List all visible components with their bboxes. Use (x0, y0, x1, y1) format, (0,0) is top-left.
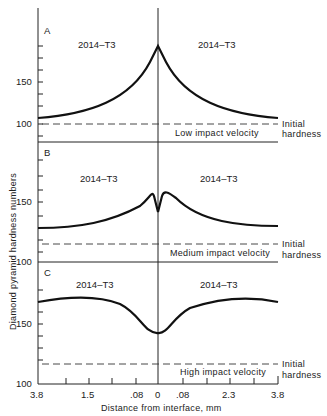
panel-c-hardness-label: hardness (282, 370, 322, 380)
panel-c-condition: High impact velocity (180, 367, 266, 377)
panel-a-label: A (44, 25, 51, 36)
panel-b-initial-label: Initial (282, 239, 305, 249)
hardness-chart: A B C 2014–T3 2014–T3 2014–T3 2014–T3 20… (0, 0, 327, 416)
panel-c-initial-label: Initial (282, 359, 305, 369)
x-axis-title: Distance from interface, mm (101, 403, 222, 413)
panel-b-y150: 150 (16, 196, 32, 207)
panel-b-hardness-label: hardness (282, 250, 322, 260)
x-tick-0: 3.8 (30, 389, 43, 400)
panel-a-hardness-label: hardness (282, 129, 322, 139)
panel-c-material-right: 2014–T3 (200, 279, 238, 290)
x-tick-6: 3.8 (271, 389, 284, 400)
panel-a-condition: Low impact velocity (175, 128, 259, 138)
y-axis-title: Diamond pyramid hardness numbers (8, 173, 18, 330)
x-tick-3: 0 (155, 389, 160, 400)
panel-c-material-left: 2014–T3 (76, 279, 114, 290)
panel-c-label: C (44, 267, 51, 278)
panel-a-material-left: 2014–T3 (78, 39, 116, 50)
panel-b-y100: 100 (16, 256, 32, 267)
panel-b-material-left: 2014–T3 (80, 173, 118, 184)
panel-b-material-right: 2014–T3 (200, 173, 238, 184)
panel-c-y150: 150 (16, 318, 32, 329)
x-tick-1: 1.5 (81, 389, 94, 400)
x-tick-4: .08 (176, 389, 189, 400)
panel-b-label: B (44, 147, 50, 158)
panel-a-y150: 150 (16, 76, 32, 87)
x-tick-2: .08 (130, 389, 143, 400)
panel-b-y-ticks (38, 160, 43, 252)
panel-b-condition: Medium impact velocity (170, 248, 270, 258)
panel-c-y100: 100 (16, 378, 32, 389)
x-axis-ticks (66, 376, 278, 384)
panel-a-y-ticks (38, 46, 43, 136)
panel-a-y100: 100 (16, 118, 32, 129)
panel-a-material-right: 2014–T3 (198, 39, 236, 50)
panel-a-initial-label: Initial (282, 119, 305, 129)
x-tick-5: 2.3 (222, 389, 235, 400)
